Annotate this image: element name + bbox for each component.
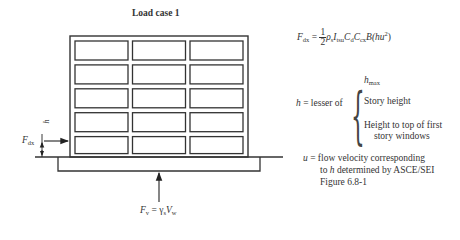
window [133,65,186,84]
building-frame [70,36,248,157]
fv-force-label: Fv = γsVw [140,205,176,216]
window [75,137,128,154]
window [133,41,186,60]
h-dimension-label: h [42,120,51,124]
window [133,113,186,132]
u-definition-line2: to h determined by ASCE/SEI [320,165,435,175]
h-option-story-height: Story height [364,96,411,106]
window [133,89,186,108]
window [190,137,243,154]
fdx-force-label: Fdx [22,135,34,146]
h-option-window-height-2: story windows [374,131,430,141]
window [75,89,128,108]
window [190,89,243,108]
u-definition-line3: Figure 6.8-1 [320,177,367,187]
h-option-hmax: hmax [364,75,380,86]
windows [75,41,243,154]
window [190,65,243,84]
h-option-window-height-1: Height to top of first [364,120,442,130]
brace-icon: { [351,85,365,147]
window [75,65,128,84]
u-definition-line1: u = flow velocity corresponding [303,153,425,163]
window [75,41,128,60]
window [133,137,186,154]
foundation [58,157,260,171]
fdx-equation: Fdx = 12ρsItsuCdCcxB(hu2) [297,28,391,47]
h-definition: h = lesser of [296,98,343,108]
window [190,41,243,60]
window [75,113,128,132]
window [190,113,243,132]
